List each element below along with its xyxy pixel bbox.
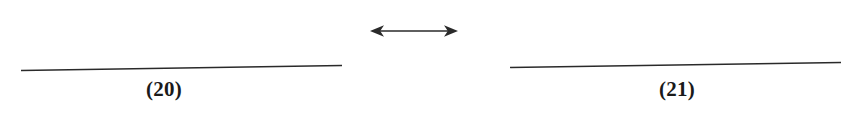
rule-line-left	[21, 66, 342, 71]
double-headed-arrow-icon	[366, 18, 462, 44]
figure-canvas: (20) (21)	[0, 0, 844, 116]
rule-line-right	[510, 63, 841, 68]
figure-caption-left: (20)	[114, 79, 214, 100]
double-arrow-annotation	[366, 18, 462, 44]
figure-caption-right: (21)	[627, 79, 727, 100]
